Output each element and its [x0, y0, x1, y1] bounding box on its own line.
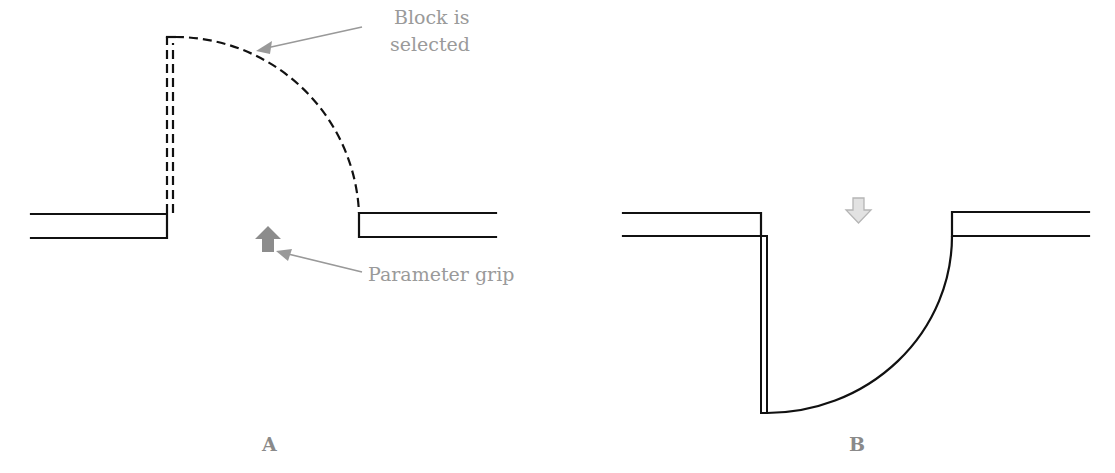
callout-parameter-grip: Parameter grip [276, 249, 514, 285]
panel-b-left-wall [623, 213, 761, 236]
callout-block-selected: Block is selected [256, 6, 470, 55]
panel-b-door-leaf[interactable] [761, 236, 767, 413]
panel-a-right-wall [359, 213, 496, 237]
panel-b-door-swing-arc[interactable] [767, 236, 952, 413]
panel-b-label: B [849, 433, 865, 455]
callout-block-selected-line2: selected [390, 33, 470, 55]
panel-a: Block is selected Parameter grip A [31, 6, 514, 455]
down-arrow-grip-icon[interactable] [846, 198, 871, 223]
up-arrow-grip-icon[interactable] [255, 226, 281, 252]
panel-a-left-wall [31, 214, 167, 238]
callout-parameter-grip-text: Parameter grip [368, 263, 514, 285]
door-flip-diagram: Block is selected Parameter grip A B [0, 0, 1115, 473]
callout-block-selected-line1: Block is [394, 6, 470, 28]
panel-a-door-swing-arc[interactable] [175, 37, 359, 213]
panel-b: B [623, 198, 1089, 455]
panel-a-label: A [261, 433, 277, 455]
panel-b-right-wall [952, 212, 1089, 236]
panel-a-door-leaf[interactable] [167, 37, 175, 213]
